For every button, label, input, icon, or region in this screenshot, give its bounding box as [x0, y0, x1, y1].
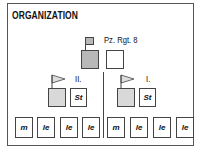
company-box: le: [153, 117, 171, 138]
battalion-i-hq-box: [117, 88, 135, 107]
company-box: le: [130, 117, 148, 138]
regiment-staff-box: [106, 50, 124, 69]
company-box: m: [15, 117, 33, 138]
regiment-hq-box: [81, 50, 99, 69]
regiment-flag-icon: [85, 37, 94, 45]
company-box: le: [37, 117, 55, 138]
battalion-ii-staff-box: St: [70, 88, 87, 107]
battalion-i-staff-box: St: [139, 88, 156, 107]
battalion-ii-label: II.: [75, 74, 81, 84]
regiment-label: Pz. Rgt. 8: [104, 35, 138, 45]
battalion-ii-flag-icon: [51, 74, 67, 88]
battalion-ii-hq-box: [48, 88, 66, 107]
battalion-divider: [103, 72, 104, 138]
company-box: le: [176, 117, 194, 138]
regiment-flag-pole: [85, 37, 86, 50]
diagram-title: ORGANIZATION: [12, 10, 78, 21]
company-box: le: [82, 117, 100, 138]
company-box: le: [60, 117, 78, 138]
battalion-i-label: I.: [146, 74, 150, 84]
company-box: m: [107, 117, 125, 138]
battalion-i-flag-icon: [120, 74, 136, 88]
